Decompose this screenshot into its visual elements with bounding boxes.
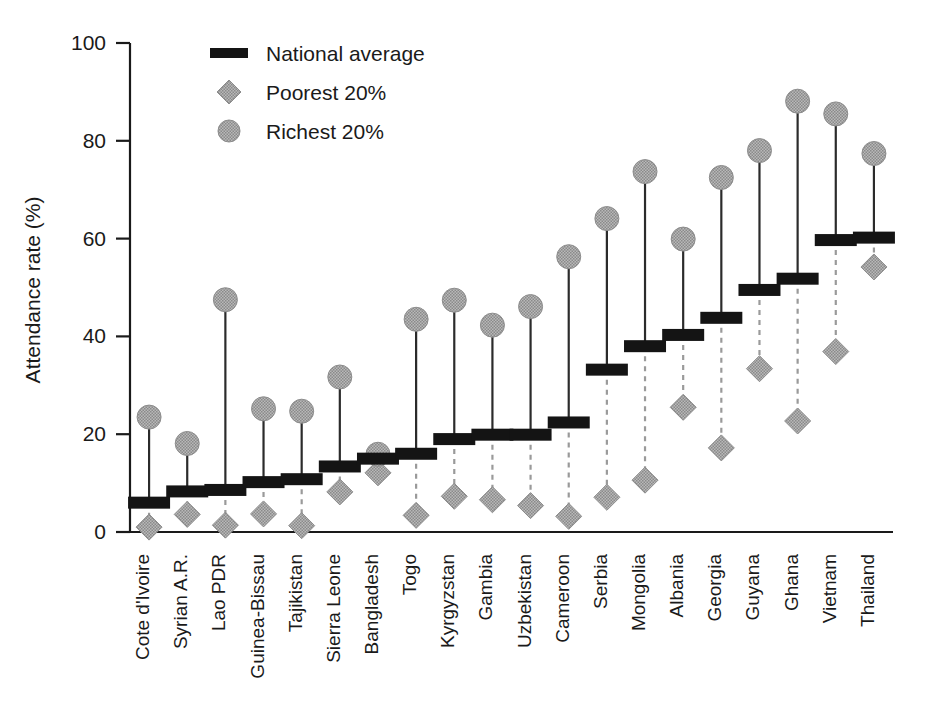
richest-marker — [404, 307, 428, 331]
richest-marker — [328, 365, 352, 389]
national-average-marker — [777, 273, 819, 285]
national-average-marker — [471, 429, 513, 441]
data-group-bangladesh — [357, 442, 399, 486]
data-group-guinea-bissau — [243, 397, 285, 527]
y-axis-tick-label: 80 — [83, 129, 106, 152]
poorest-marker — [212, 512, 238, 538]
data-group-mongolia — [624, 160, 666, 494]
x-axis-label: Tajikistan — [285, 554, 306, 632]
poorest-marker — [823, 339, 849, 365]
legend-label: Richest 20% — [266, 120, 384, 143]
poorest-marker — [174, 501, 200, 527]
x-axis-label: Guinea-Bissau — [247, 554, 268, 679]
y-axis-title: Attendance rate (%) — [21, 197, 44, 384]
x-axis-label: Kyrgyzstan — [437, 554, 458, 648]
data-group-lao-pdr — [204, 288, 246, 538]
national-average-marker — [395, 448, 437, 460]
x-axis-label: Ghana — [781, 554, 802, 611]
x-axis-labels: Cote d'IvoireSyrian A.R.Lao PDRGuinea-Bi… — [132, 554, 878, 679]
data-group-guyana — [738, 139, 780, 382]
richest-marker — [137, 405, 161, 429]
x-axis-label: Thailand — [857, 554, 878, 627]
legend-national-average-swatch — [210, 48, 248, 58]
poorest-marker — [327, 479, 353, 505]
poorest-marker — [670, 394, 696, 420]
poorest-marker — [708, 435, 734, 461]
x-axis-label: Syrian A.R. — [170, 554, 191, 649]
series-layer — [128, 89, 895, 540]
national-average-marker — [243, 476, 285, 488]
x-axis-label: Gambia — [475, 554, 496, 621]
poorest-marker — [746, 356, 772, 382]
x-axis-label: Cote d'Ivoire — [132, 554, 153, 660]
data-group-georgia — [700, 165, 742, 460]
data-group-kyrgyzstan — [433, 288, 475, 509]
richest-marker — [442, 288, 466, 312]
richest-marker — [786, 89, 810, 113]
data-group-cameroon — [548, 245, 590, 530]
richest-marker — [862, 142, 886, 166]
richest-marker — [633, 160, 657, 184]
legend-label: National average — [266, 42, 425, 65]
national-average-marker — [586, 364, 628, 376]
data-group-uzbekistan — [510, 295, 552, 519]
richest-marker — [175, 431, 199, 455]
y-axis-title-text: Attendance rate (%) — [21, 197, 44, 384]
x-axis-label: Bangladesh — [361, 554, 382, 654]
x-axis-label: Georgia — [704, 554, 725, 622]
national-average-marker — [815, 234, 857, 246]
national-average-marker — [853, 232, 895, 244]
poorest-marker — [556, 503, 582, 529]
attendance-rate-chart: Attendance rate (%) 020406080100 Cote d'… — [0, 0, 931, 713]
national-average-marker — [700, 312, 742, 324]
national-average-marker — [433, 433, 475, 445]
national-average-marker — [624, 340, 666, 352]
y-axis-tick-label: 0 — [94, 520, 106, 543]
national-average-marker — [662, 329, 704, 341]
data-group-syrian-a-r- — [166, 431, 208, 527]
y-axis-tick-label: 100 — [71, 31, 106, 54]
national-average-marker — [548, 416, 590, 428]
x-axis-label: Lao PDR — [208, 554, 229, 631]
chart-canvas: Attendance rate (%) 020406080100 Cote d'… — [0, 0, 931, 713]
y-axis-tick-label: 40 — [83, 324, 106, 347]
legend-poorest-swatch — [217, 80, 241, 104]
x-axis-label: Vietnam — [819, 554, 840, 623]
legend-label: Poorest 20% — [266, 81, 386, 104]
richest-marker — [213, 288, 237, 312]
x-axis-label: Mongolia — [628, 554, 649, 632]
poorest-marker — [594, 484, 620, 510]
poorest-marker — [861, 254, 887, 280]
x-axis-label: Togo — [399, 554, 420, 595]
x-axis-label: Cameroon — [552, 554, 573, 643]
data-group-thailand — [853, 142, 895, 280]
data-group-tajikistan — [281, 399, 323, 538]
richest-marker — [671, 227, 695, 251]
national-average-marker — [319, 460, 361, 472]
national-average-marker — [204, 484, 246, 496]
richest-marker — [747, 139, 771, 163]
x-axis-label: Uzbekistan — [514, 554, 535, 648]
data-group-ghana — [777, 89, 819, 434]
y-axis-tick-label: 20 — [83, 422, 106, 445]
y-axis-tick-label: 60 — [83, 227, 106, 250]
x-axis-label: Sierra Leone — [323, 554, 344, 663]
poorest-marker — [289, 513, 315, 539]
richest-marker — [519, 295, 543, 319]
poorest-marker — [251, 501, 277, 527]
richest-marker — [480, 313, 504, 337]
data-group-gambia — [471, 313, 513, 513]
national-average-marker — [166, 485, 208, 497]
poorest-marker — [403, 502, 429, 528]
data-group-serbia — [586, 207, 628, 511]
national-average-marker — [738, 284, 780, 296]
data-group-cote-d-ivoire — [128, 405, 170, 540]
data-group-togo — [395, 307, 437, 528]
richest-marker — [557, 245, 581, 269]
national-average-marker — [510, 429, 552, 441]
richest-marker — [290, 399, 314, 423]
poorest-marker — [632, 467, 658, 493]
national-average-marker — [281, 473, 323, 485]
richest-marker — [709, 165, 733, 189]
x-axis-label: Guyana — [742, 554, 763, 621]
